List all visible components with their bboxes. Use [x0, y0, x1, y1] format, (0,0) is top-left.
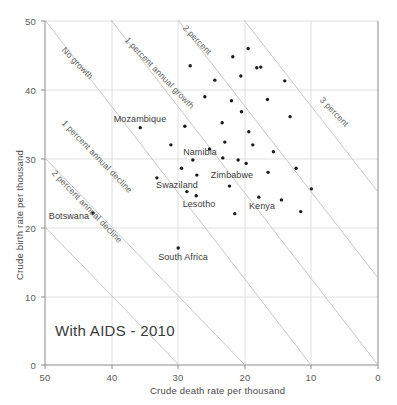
data-point [169, 143, 172, 146]
data-point-south-africa [177, 246, 180, 249]
x-tick-0: 0 [375, 372, 380, 383]
data-point [230, 99, 233, 102]
chart-annotation-title: With AIDS - 2010 [55, 322, 175, 339]
x-tick-40: 40 [107, 372, 118, 383]
y-tick-40: 40 [18, 85, 36, 96]
y-tick-0: 0 [18, 360, 36, 371]
data-point [259, 65, 262, 68]
data-point [244, 162, 247, 165]
point-label-botswana: Botswana [49, 211, 89, 221]
data-point [266, 171, 269, 174]
data-point [239, 74, 242, 77]
data-point-namibia [191, 158, 194, 161]
data-point [247, 130, 250, 133]
point-label-namibia: Namibia [183, 147, 217, 157]
gridlines [45, 21, 378, 365]
data-point [180, 167, 183, 170]
point-label-swaziland: Swaziland [156, 180, 198, 190]
axis-lines [45, 21, 378, 365]
data-point [240, 110, 243, 113]
data-point [294, 167, 297, 170]
x-tick-30: 30 [173, 372, 184, 383]
x-tick-50: 50 [40, 372, 51, 383]
data-point [288, 115, 291, 118]
data-point [213, 78, 216, 81]
y-tick-50: 50 [18, 16, 36, 27]
data-point [246, 47, 249, 50]
y-tick-10: 10 [18, 292, 36, 303]
x-tick-20: 20 [240, 372, 251, 383]
data-point [310, 187, 313, 190]
data-point [236, 158, 239, 161]
data-point [183, 125, 186, 128]
data-point [266, 98, 269, 101]
data-point [283, 79, 286, 82]
data-point [233, 212, 236, 215]
data-point [299, 210, 302, 213]
data-point [280, 198, 283, 201]
data-point-zimbabwe [195, 173, 198, 176]
point-label-lesotho: Lesotho [183, 199, 216, 209]
data-point [272, 150, 275, 153]
point-label-mozambique: Mozambique [114, 114, 167, 124]
reference-lines [45, 20, 378, 365]
data-point [220, 121, 223, 124]
point-label-south-africa: South Africa [158, 252, 208, 262]
data-point [231, 55, 234, 58]
data-point-mozambique [139, 126, 142, 129]
data-point [255, 66, 258, 69]
data-point-swaziland [185, 190, 188, 193]
point-label-kenya: Kenya [249, 201, 275, 211]
data-point [203, 95, 206, 98]
data-point [251, 143, 254, 146]
y-axis-title: Crude birth rate per thousand [14, 150, 25, 280]
data-point-kenya [257, 195, 260, 198]
point-label-zimbabwe: Zimbabwe [211, 170, 253, 180]
x-axis-title: Crude death rate per thousand [150, 385, 285, 396]
data-point-lesotho [194, 194, 197, 197]
data-point [228, 184, 231, 187]
data-point [221, 156, 224, 159]
data-point [188, 64, 191, 67]
crude-rates-scatter-chart: 50 40 30 20 10 0 50 40 30 20 10 0 Crude … [0, 0, 397, 405]
x-tick-10: 10 [306, 372, 317, 383]
data-point [223, 140, 226, 143]
